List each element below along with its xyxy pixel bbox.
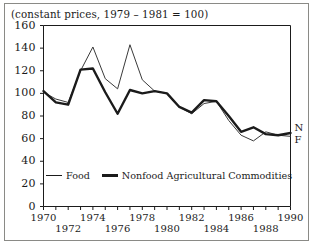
y-tick-label: 160 bbox=[6, 19, 36, 32]
series-line-nonfood bbox=[44, 68, 291, 135]
chart-axes bbox=[40, 26, 291, 211]
x-tick-label: 1990 bbox=[274, 212, 308, 223]
x-tick-label: 1974 bbox=[76, 212, 110, 223]
x-tick-label: 1986 bbox=[224, 212, 258, 223]
y-tick-label: 80 bbox=[6, 109, 36, 122]
x-tick-label: 1982 bbox=[175, 212, 209, 223]
legend-label-nonfood: Nonfood Agricultural Commodities bbox=[122, 170, 292, 181]
chart-series bbox=[44, 45, 291, 141]
x-tick-label: 1970 bbox=[27, 212, 61, 223]
x-tick-label: 1972 bbox=[51, 223, 85, 234]
legend-label-food: Food bbox=[66, 170, 90, 181]
series-end-label-food: F bbox=[295, 134, 302, 145]
x-tick-label: 1978 bbox=[125, 212, 159, 223]
chart-legend: FoodNonfood Agricultural Commodities bbox=[46, 170, 300, 181]
x-tick-label: 1980 bbox=[150, 223, 184, 234]
x-tick-label: 1976 bbox=[101, 223, 135, 234]
x-tick-label: 1988 bbox=[249, 223, 283, 234]
y-tick-label: 60 bbox=[6, 132, 36, 145]
y-tick-label: 20 bbox=[6, 177, 36, 190]
legend-swatch-nonfood bbox=[102, 174, 118, 176]
y-tick-label: 140 bbox=[6, 41, 36, 54]
y-tick-label: 40 bbox=[6, 154, 36, 167]
series-end-label-nonfood: N bbox=[295, 122, 304, 133]
legend-swatch-food bbox=[46, 175, 62, 176]
x-tick-label: 1984 bbox=[199, 223, 233, 234]
line-chart-plot bbox=[0, 0, 315, 245]
y-tick-label: 120 bbox=[6, 64, 36, 77]
y-tick-label: 100 bbox=[6, 86, 36, 99]
